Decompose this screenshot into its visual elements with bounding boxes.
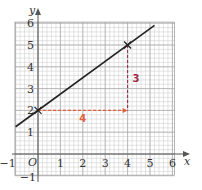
x-tick-label: 6 [169,157,176,170]
tick-labels: −1123456−1123456 [0,17,176,184]
rise-label: 3 [133,73,140,84]
y-axis-arrow-icon [35,8,41,15]
y-tick-label: −1 [20,171,36,184]
x-tick-label: 2 [79,157,86,170]
origin-label: O [28,156,37,169]
major-grid [15,22,175,176]
y-axis-label: y [28,4,36,17]
x-axis-label: x [184,155,191,168]
x-tick-label: 4 [124,157,131,170]
y-tick-label: 5 [27,39,34,52]
y-tick-label: 3 [27,83,34,96]
y-tick-label: 4 [27,61,34,74]
run-label: 4 [79,113,86,124]
x-tick-label: 1 [57,157,64,170]
y-tick-label: 1 [27,126,34,139]
coordinate-graph: −1123456−1123456 x y O 4 3 [0,0,202,190]
x-tick-label: 3 [102,157,109,170]
y-tick-label: 6 [27,17,34,30]
x-tick-label: −1 [0,157,16,170]
run-arrow-icon [123,108,128,113]
x-tick-label: 5 [147,157,154,170]
